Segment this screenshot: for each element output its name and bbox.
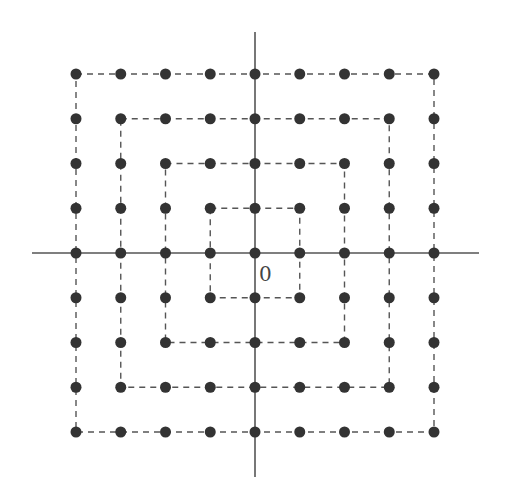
lattice-point [339,113,350,124]
lattice-point [250,113,261,124]
lattice-point [429,113,440,124]
lattice-point [294,382,305,393]
lattice-point [205,248,216,259]
lattice-point [429,382,440,393]
lattice-point [115,69,126,80]
lattice-point [250,382,261,393]
lattice-point [294,292,305,303]
lattice-point [250,248,261,259]
lattice-point [160,292,171,303]
lattice-point [205,292,216,303]
lattice-point [339,248,350,259]
lattice-point [115,427,126,438]
lattice-point [160,427,171,438]
lattice-point [71,292,82,303]
lattice-point [115,248,126,259]
lattice-point [250,337,261,348]
lattice-point [160,382,171,393]
lattice-point [339,292,350,303]
lattice-point [384,427,395,438]
lattice-point [71,337,82,348]
lattice-point [250,69,261,80]
lattice-point [205,427,216,438]
lattice-point [294,337,305,348]
lattice-point [205,158,216,169]
lattice-point [71,69,82,80]
lattice-point [429,69,440,80]
lattice-point [339,203,350,214]
lattice-point [429,427,440,438]
lattice-point [205,337,216,348]
lattice-point [429,158,440,169]
lattice-point [339,382,350,393]
lattice-point [205,203,216,214]
lattice-point [115,113,126,124]
lattice-point [429,337,440,348]
lattice-point [71,427,82,438]
lattice-point [205,69,216,80]
lattice-point [160,337,171,348]
lattice-point [339,158,350,169]
lattice-point [429,292,440,303]
lattice-point [115,292,126,303]
lattice-point [294,69,305,80]
lattice-point [384,69,395,80]
lattice-point [384,203,395,214]
lattice-point [384,292,395,303]
lattice-point [250,292,261,303]
lattice-point [429,248,440,259]
lattice-point [205,113,216,124]
lattice-point [115,382,126,393]
lattice-point [115,158,126,169]
lattice-point [384,382,395,393]
lattice-point [71,158,82,169]
lattice-point [294,113,305,124]
lattice-point [160,113,171,124]
lattice-point [160,248,171,259]
lattice-point [160,158,171,169]
lattice-point [294,158,305,169]
lattice-point [71,113,82,124]
lattice-point [250,203,261,214]
lattice-point [294,203,305,214]
lattice-point [429,203,440,214]
lattice-point [160,69,171,80]
lattice-point [384,337,395,348]
lattice-point [339,427,350,438]
lattice-point [71,203,82,214]
lattice-point [384,158,395,169]
lattice-points [71,69,440,438]
lattice-point [250,427,261,438]
lattice-point [250,158,261,169]
lattice-point [115,203,126,214]
lattice-point [339,337,350,348]
lattice-point [71,248,82,259]
lattice-point [384,113,395,124]
lattice-spiral-diagram: 0 [0,0,505,496]
lattice-point [384,248,395,259]
lattice-point [115,337,126,348]
lattice-point [71,382,82,393]
lattice-point [205,382,216,393]
lattice-point [160,203,171,214]
lattice-point [294,248,305,259]
origin-label: 0 [259,262,272,286]
lattice-point [339,69,350,80]
lattice-point [294,427,305,438]
